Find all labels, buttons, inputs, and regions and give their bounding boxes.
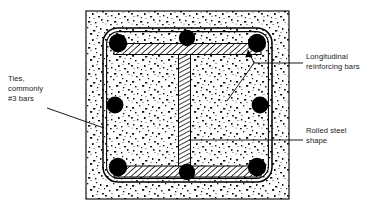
rebar-top-left [109,34,127,52]
label-longitudinal-reinforcing-bars: Longitudinal reinforcing bars [306,52,360,72]
label-ties: Ties, commonly #3 bars [8,74,43,105]
rebar-mid-left [107,97,124,114]
rebar-top-right [248,34,266,52]
rebar-bottom-center [179,164,195,180]
rebar-top-center [179,30,195,46]
label-rolled-steel-shape: Rolled steel shape [306,126,347,146]
column-cross-section-diagram [0,0,388,217]
rebar-bottom-right [248,158,266,176]
rebar-mid-right [252,97,269,114]
rebar-bottom-left [109,158,127,176]
